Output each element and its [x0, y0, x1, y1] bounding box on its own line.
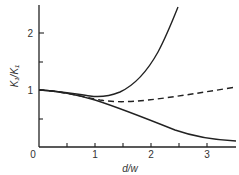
x-tick-label-2: 2: [148, 149, 154, 160]
x-tick-label-0: 0: [30, 149, 36, 160]
x-axis-label: d/w: [122, 163, 138, 174]
y-axis-label: K₁/K₁: [9, 65, 20, 87]
y-tick-label-1: 1: [27, 85, 33, 96]
y-ticks: [39, 33, 44, 119]
y-tick-label-2: 2: [27, 28, 33, 39]
x-tick-label-3: 3: [204, 149, 210, 160]
upper-curve: [39, 7, 178, 97]
chart: 0 1 2 3 1 2 d/w K₁/K₁: [0, 0, 239, 175]
dashed-curve: [39, 87, 236, 102]
lower-curve: [39, 90, 236, 141]
x-tick-label-1: 1: [92, 149, 98, 160]
